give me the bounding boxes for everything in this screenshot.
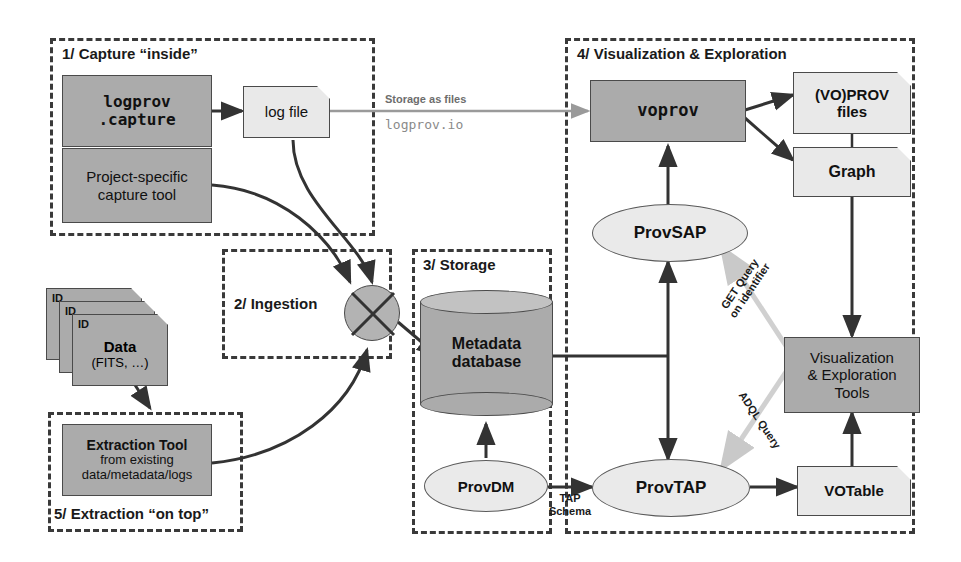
group-extraction-label: 5/ Extraction “on top” — [54, 505, 209, 522]
data-card-front-id: ID — [78, 318, 89, 330]
node-project-capture-tool-line1: Project-specific — [86, 168, 188, 185]
node-metadata-database-label: Metadata database — [420, 290, 553, 416]
node-votable-label: VOTable — [797, 482, 911, 499]
node-voprov-files-text: (VO)PROV files — [793, 86, 911, 121]
node-logprov-capture-line2: .capture — [98, 111, 175, 129]
label-tap-schema: TAP Schema — [546, 492, 594, 517]
node-data-sublabel: (FITS, …) — [91, 355, 148, 370]
node-project-capture-tool-line2: capture tool — [98, 186, 176, 203]
node-logprov-capture-line1: logprov — [103, 93, 170, 111]
node-votable[interactable]: VOTable — [797, 466, 911, 516]
data-card-front: ID Data (FITS, …) — [72, 314, 168, 386]
node-graph-label: Graph — [793, 163, 911, 181]
node-log-file[interactable]: log file — [243, 86, 330, 138]
vis-tools-line3: Tools — [834, 384, 869, 401]
node-extraction-tool-line3: data/metadata/logs — [82, 468, 193, 483]
node-extraction-tool[interactable]: Extraction Tool from existing data/metad… — [62, 424, 212, 496]
label-logprov-io: logprov.io — [385, 117, 463, 132]
group-visualization-label: 4/ Visualization & Exploration — [577, 45, 787, 62]
node-log-file-label: log file — [243, 103, 330, 120]
group-ingestion-label: 2/ Ingestion — [234, 295, 317, 312]
node-metadata-database[interactable]: Metadata database — [420, 290, 553, 416]
label-tap-schema-line2: Schema — [546, 505, 594, 518]
cross-icon — [345, 286, 401, 342]
node-logprov-capture[interactable]: logprov .capture — [62, 75, 212, 147]
node-provsap[interactable]: ProvSAP — [592, 204, 748, 262]
node-voprov[interactable]: voprov — [590, 80, 746, 142]
node-provdm[interactable]: ProvDM — [424, 460, 548, 512]
node-extraction-tool-line2: from existing — [100, 453, 174, 468]
node-extraction-tool-line1: Extraction Tool — [87, 437, 188, 453]
node-data-stack[interactable]: ID ID ID Data (FITS, …) — [46, 288, 168, 386]
diagram-canvas: 1/ Capture “inside” 2/ Ingestion 3/ Stor… — [0, 0, 961, 562]
group-storage-label: 3/ Storage — [423, 256, 496, 273]
voprov-files-line2: files — [793, 103, 911, 120]
ingestion-merge-node[interactable] — [344, 285, 400, 341]
node-provtap[interactable]: ProvTAP — [592, 459, 750, 517]
node-voprov-files[interactable]: (VO)PROV files — [793, 72, 911, 134]
node-data-label: Data — [104, 338, 137, 355]
label-tap-schema-line1: TAP — [546, 492, 594, 505]
vis-tools-line2: & Exploration — [807, 366, 896, 383]
node-visualization-tools[interactable]: Visualization & Exploration Tools — [784, 337, 920, 413]
metadata-db-line2: database — [452, 353, 521, 371]
label-storage-as-files: Storage as files — [385, 93, 466, 105]
vis-tools-line1: Visualization — [810, 349, 894, 366]
metadata-db-line1: Metadata — [452, 335, 521, 353]
node-project-capture-tool[interactable]: Project-specific capture tool — [62, 148, 212, 223]
voprov-files-line1: (VO)PROV — [793, 86, 911, 103]
group-capture-label: 1/ Capture “inside” — [62, 45, 198, 62]
node-graph[interactable]: Graph — [793, 147, 911, 197]
